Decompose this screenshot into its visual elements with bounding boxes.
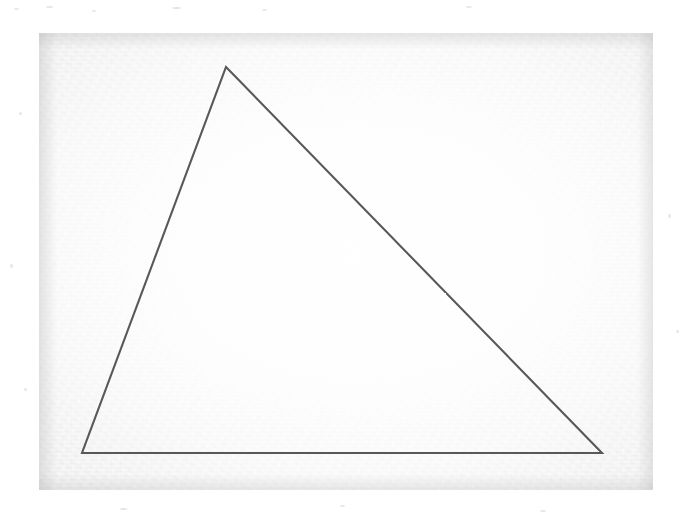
scan-speck [262, 9, 267, 11]
scan-speck [14, 8, 19, 10]
scan-speck [10, 264, 13, 268]
scan-speck [92, 10, 96, 12]
scan-speck [340, 505, 345, 507]
scan-speck [46, 6, 53, 8]
scan-speck [120, 508, 127, 510]
paper-region [39, 33, 653, 490]
scan-speck [172, 7, 181, 9]
scan-speck [466, 6, 472, 8]
paper-edge-shading [39, 33, 653, 490]
scan-speck [19, 112, 22, 115]
scan-speck [24, 388, 27, 391]
figure-canvas [0, 0, 693, 518]
paper-highlight-wash [39, 33, 653, 490]
scan-speck [540, 510, 546, 512]
paper-grain-texture [39, 33, 653, 490]
scan-speck [676, 330, 679, 333]
scan-speck [668, 214, 671, 218]
